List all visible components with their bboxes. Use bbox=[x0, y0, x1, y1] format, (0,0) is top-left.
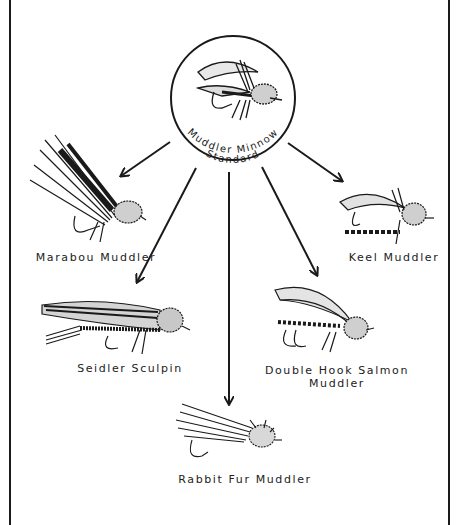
label-seidler-sculpin: Seidler Sculpin bbox=[70, 362, 190, 375]
arrow-to-keel bbox=[288, 143, 342, 181]
label-double-hook-line2: Muddler bbox=[262, 377, 412, 390]
salmon-fly-icon bbox=[275, 287, 374, 352]
arrow-to-marabou bbox=[121, 142, 170, 176]
label-double-hook-line1: Double Hook Salmon bbox=[262, 364, 412, 377]
label-marabou-muddler: Marabou Muddler bbox=[22, 251, 170, 264]
sculpin-fly-icon bbox=[42, 301, 190, 354]
rabbit-fur-fly-icon bbox=[176, 404, 282, 457]
arrow-to-double-hook bbox=[262, 167, 317, 275]
arrow-to-sculpin bbox=[137, 168, 196, 282]
label-keel-muddler: Keel Muddler bbox=[340, 251, 448, 264]
fly-icon bbox=[198, 60, 282, 120]
keel-fly-icon bbox=[340, 188, 434, 244]
label-rabbit-fur-muddler: Rabbit Fur Muddler bbox=[170, 473, 320, 486]
marabou-fly-icon bbox=[30, 135, 146, 242]
center-node: Standard Muddler Minnow bbox=[171, 36, 295, 165]
